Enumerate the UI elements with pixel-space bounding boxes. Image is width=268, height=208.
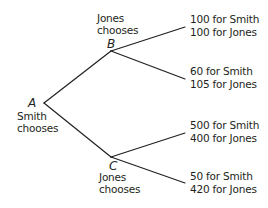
- payoff-4: 50 for Smith 420 for Jones: [190, 170, 257, 195]
- node-a-caption: Smith chooses: [17, 110, 58, 134]
- node-b-caption-line1: Jones: [97, 12, 138, 24]
- node-b-letter: B: [107, 38, 115, 50]
- node-c-caption-line2: chooses: [99, 183, 140, 195]
- payoff-1: 100 for Smith 100 for Jones: [190, 13, 259, 38]
- edge-c-payoff-3: [111, 133, 185, 157]
- edge-a-b: [44, 51, 111, 103]
- node-c-caption-line1: Jones: [99, 171, 140, 183]
- payoff-1-jones: 100 for Jones: [190, 26, 259, 39]
- payoff-4-jones: 420 for Jones: [190, 183, 257, 196]
- node-a-caption-line1: Smith: [17, 110, 58, 122]
- payoff-4-smith: 50 for Smith: [190, 170, 257, 183]
- payoff-1-smith: 100 for Smith: [190, 13, 259, 26]
- payoff-3-smith: 500 for Smith: [190, 119, 259, 132]
- node-a-letter: A: [28, 97, 36, 109]
- game-tree-diagram: Jones chooses B A Smith chooses C Jones …: [0, 0, 268, 208]
- node-c-caption: Jones chooses: [99, 171, 140, 195]
- payoff-2-smith: 60 for Smith: [190, 65, 257, 78]
- edge-b-payoff-2: [111, 51, 185, 79]
- payoff-3-jones: 400 for Jones: [190, 132, 259, 145]
- payoff-2: 60 for Smith 105 for Jones: [190, 65, 257, 90]
- node-b-caption: Jones chooses: [97, 12, 138, 36]
- payoff-2-jones: 105 for Jones: [190, 78, 257, 91]
- node-b-caption-line2: chooses: [97, 24, 138, 36]
- node-a-caption-line2: chooses: [17, 122, 58, 134]
- payoff-3: 500 for Smith 400 for Jones: [190, 119, 259, 144]
